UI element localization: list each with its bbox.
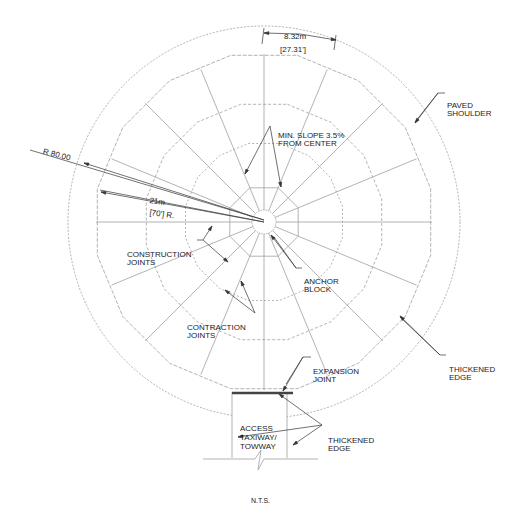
segment-width-imperial: [27.31']	[280, 46, 306, 54]
slope-arrow	[245, 126, 270, 174]
construction-joints-label: CONSTRUCTIONJOINTS	[127, 235, 191, 275]
thickened-edge-leader	[400, 316, 440, 355]
contraction-joints-label: CONTRACTIONJOINTS	[187, 308, 246, 348]
radial-joint	[201, 70, 260, 211]
thickened-edge-leader	[293, 425, 322, 445]
paved-shoulder-label: PAVEDSHOULDER	[447, 86, 491, 126]
access-taxiway-label: ACCESSTAXIWAY/TOWWAY	[240, 406, 277, 460]
thickened-edge-bottom-label: THICKENEDEDGE	[328, 421, 374, 461]
segment-width-metric: 8.32m	[284, 33, 306, 41]
min-slope-label: MIN. SLOPE 3.5%FROM CENTER	[278, 116, 344, 156]
radial-joint	[112, 159, 253, 218]
radial-joint	[275, 227, 416, 286]
paved-shoulder-leader	[415, 93, 438, 123]
thickened-edge-right-label: THICKENEDEDGE	[449, 350, 495, 390]
anchor-leader	[274, 237, 302, 268]
scale-note: N.T.S.	[251, 497, 270, 505]
expansion-joint-label: EXPANSIONJOINT	[313, 352, 359, 392]
anchor-block-label: ANCHORBLOCK	[304, 262, 339, 302]
radial-joint	[275, 159, 416, 218]
expansion-leader	[283, 357, 303, 391]
